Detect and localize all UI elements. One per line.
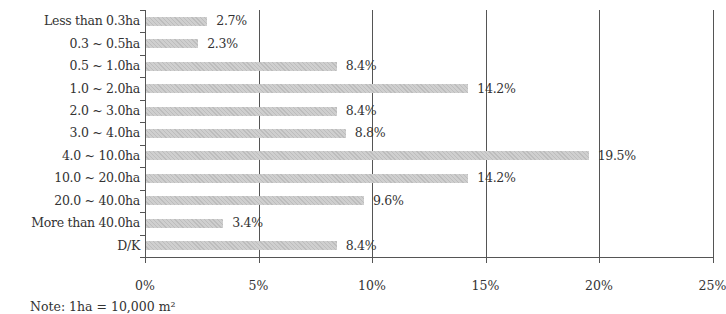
bar: [146, 196, 364, 205]
gridline: [599, 10, 600, 258]
bar: [146, 39, 198, 48]
y-tick: [140, 100, 146, 101]
category-label: 3.0 ~ 4.0ha: [70, 125, 140, 140]
category-label: 0.5 ~ 1.0ha: [70, 58, 140, 73]
value-label: 8.8%: [355, 125, 386, 140]
y-tick: [140, 145, 146, 146]
y-tick: [140, 212, 146, 213]
value-label: 2.7%: [216, 13, 247, 28]
category-label: More than 40.0ha: [31, 215, 140, 230]
bar: [146, 219, 223, 228]
value-label: 14.2%: [477, 81, 515, 96]
value-label: 3.4%: [232, 215, 263, 230]
bar: [146, 17, 207, 26]
category-label: 0.3 ~ 0.5ha: [70, 36, 140, 51]
x-tick: [372, 257, 373, 263]
value-label: 2.3%: [207, 36, 238, 51]
x-tick-label: 5%: [249, 278, 269, 293]
category-label: 10.0 ~ 20.0ha: [54, 170, 140, 185]
x-axis: [145, 257, 713, 258]
y-tick: [140, 32, 146, 33]
bar: [146, 84, 468, 93]
x-tick-label: 0%: [135, 278, 155, 293]
category-label: Less than 0.3ha: [44, 13, 140, 28]
gridline: [713, 10, 714, 258]
x-tick-label: 10%: [358, 278, 386, 293]
y-tick: [140, 190, 146, 191]
value-label: 14.2%: [477, 170, 515, 185]
y-tick: [140, 122, 146, 123]
bar: [146, 129, 346, 138]
x-tick-label: 20%: [585, 278, 613, 293]
value-label: 8.4%: [346, 238, 377, 253]
value-label: 19.5%: [598, 148, 636, 163]
category-label: 1.0 ~ 2.0ha: [70, 81, 140, 96]
bar: [146, 151, 589, 160]
value-label: 9.6%: [373, 193, 404, 208]
x-tick: [713, 257, 714, 263]
y-tick: [140, 77, 146, 78]
x-tick: [599, 257, 600, 263]
y-tick: [140, 235, 146, 236]
bar: [146, 241, 337, 250]
y-tick: [140, 10, 146, 11]
value-label: 8.4%: [346, 58, 377, 73]
y-tick: [140, 55, 146, 56]
x-tick-label: 25%: [699, 278, 726, 293]
bar: [146, 62, 337, 71]
value-label: 8.4%: [346, 103, 377, 118]
category-label: 2.0 ~ 3.0ha: [70, 103, 140, 118]
x-tick: [259, 257, 260, 263]
category-label: 20.0 ~ 40.0ha: [54, 193, 140, 208]
gridline: [486, 10, 487, 258]
y-tick: [140, 167, 146, 168]
bar: [146, 107, 337, 116]
category-label: D/K: [117, 238, 140, 253]
x-tick: [145, 257, 146, 263]
category-label: 4.0 ~ 10.0ha: [62, 148, 140, 163]
x-tick-label: 15%: [472, 278, 500, 293]
x-tick: [486, 257, 487, 263]
chart-note: Note: 1ha = 10,000 m²: [30, 299, 176, 314]
bar: [146, 174, 468, 183]
